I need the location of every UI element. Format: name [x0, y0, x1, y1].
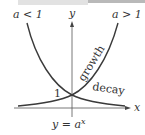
intercept-label: 1 — [54, 87, 61, 100]
x-axis-arrow-icon — [125, 106, 131, 110]
decay-label: decay — [92, 80, 127, 98]
growth-condition-label: a > 1 — [112, 8, 142, 21]
y-axis-label: y — [68, 7, 76, 20]
formula-label: y = ax — [51, 117, 86, 131]
exponential-diagram: a < 1 a > 1 y x 1 growth decay y = ax — [0, 0, 145, 135]
decay-condition-label: a < 1 — [13, 8, 43, 21]
x-axis-label: x — [134, 101, 141, 114]
y-axis-arrow-icon — [70, 21, 74, 27]
